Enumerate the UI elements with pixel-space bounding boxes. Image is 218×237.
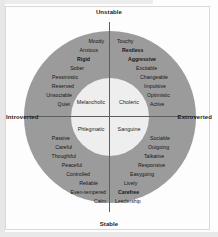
inner-circle [71,78,149,156]
trait-label: Pessimistic [8,75,78,80]
trait-label: Even-tempered [26,190,106,195]
trait-label: Moody [44,39,104,44]
trait-label: Calm [36,199,106,204]
trait-label: Active [150,102,218,107]
trait-label: Easygoing [130,172,200,177]
page-edge-bottom [0,232,218,237]
trait-label: Careful [2,145,72,150]
trait-label: Outgoing [148,145,218,150]
trait-label: Peaceful [12,163,82,168]
trait-label: Impulsive [144,84,214,89]
trait-label: Changeable [140,75,210,80]
trait-label: Excitable [136,66,206,71]
trait-label: Sober [24,66,84,71]
trait-label: Lively [124,181,194,186]
trait-label: Optimistic [147,93,217,98]
trait-label: Anxious [38,48,98,53]
personality-circumplex-figure: Unstable Stable Introverted Extroverted … [0,0,218,237]
trait-label: Unsociable [2,93,72,98]
vertical-axis-line [109,22,110,212]
trait-label: Reliable [28,181,98,186]
trait-label: Sociable [150,136,218,141]
axis-label-unstable: Unstable [0,9,218,15]
temperament-choleric: Choleric [112,99,146,105]
trait-label: Rigid [30,57,90,62]
trait-label: Passive [0,136,70,141]
axis-label-stable: Stable [0,221,218,227]
trait-label: Quiet [0,102,70,107]
axis-label-introverted: Introverted [6,114,38,120]
trait-label: Talkative [144,154,214,159]
horizontal-axis-line [24,116,196,117]
trait-label: Leadership [115,199,185,204]
temperament-sanguine: Sanguine [112,126,146,132]
temperament-melancholic: Melancholic [74,99,108,105]
trait-label: Restless [122,48,192,53]
axis-label-extroverted: Extroverted [178,114,212,120]
trait-label: Carefree [118,190,188,195]
trait-label: Controlled [20,172,90,177]
temperament-phlegmatic: Phlegmatic [74,126,108,132]
trait-label: Touchy [117,39,187,44]
trait-label: Aggressive [128,57,198,62]
cropped-caption-sliver [4,0,210,4]
trait-label: Reserved [4,84,74,89]
trait-label: Thoughtful [6,154,76,159]
trait-label: Responsive [138,163,208,168]
